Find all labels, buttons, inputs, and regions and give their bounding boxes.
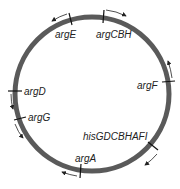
gene-tick	[103, 10, 104, 23]
gene-label: argD	[24, 86, 46, 97]
arrow-icon	[145, 154, 157, 165]
gene-label: argA	[75, 153, 96, 164]
gene-tick	[162, 81, 175, 82]
gene-label: argF	[137, 80, 158, 91]
gene-tick	[80, 164, 81, 178]
gene-label: argE	[55, 29, 76, 40]
gene-label: argCBH	[96, 29, 132, 40]
arrow-icon	[62, 172, 77, 176]
arrow-icon	[106, 10, 126, 16]
gene-label: argG	[28, 112, 50, 123]
gene-label: hisGDCBHAFI	[83, 131, 148, 142]
genetic-map: argE argCBH argF argD argG hisGDCBHAFI a…	[0, 0, 180, 189]
